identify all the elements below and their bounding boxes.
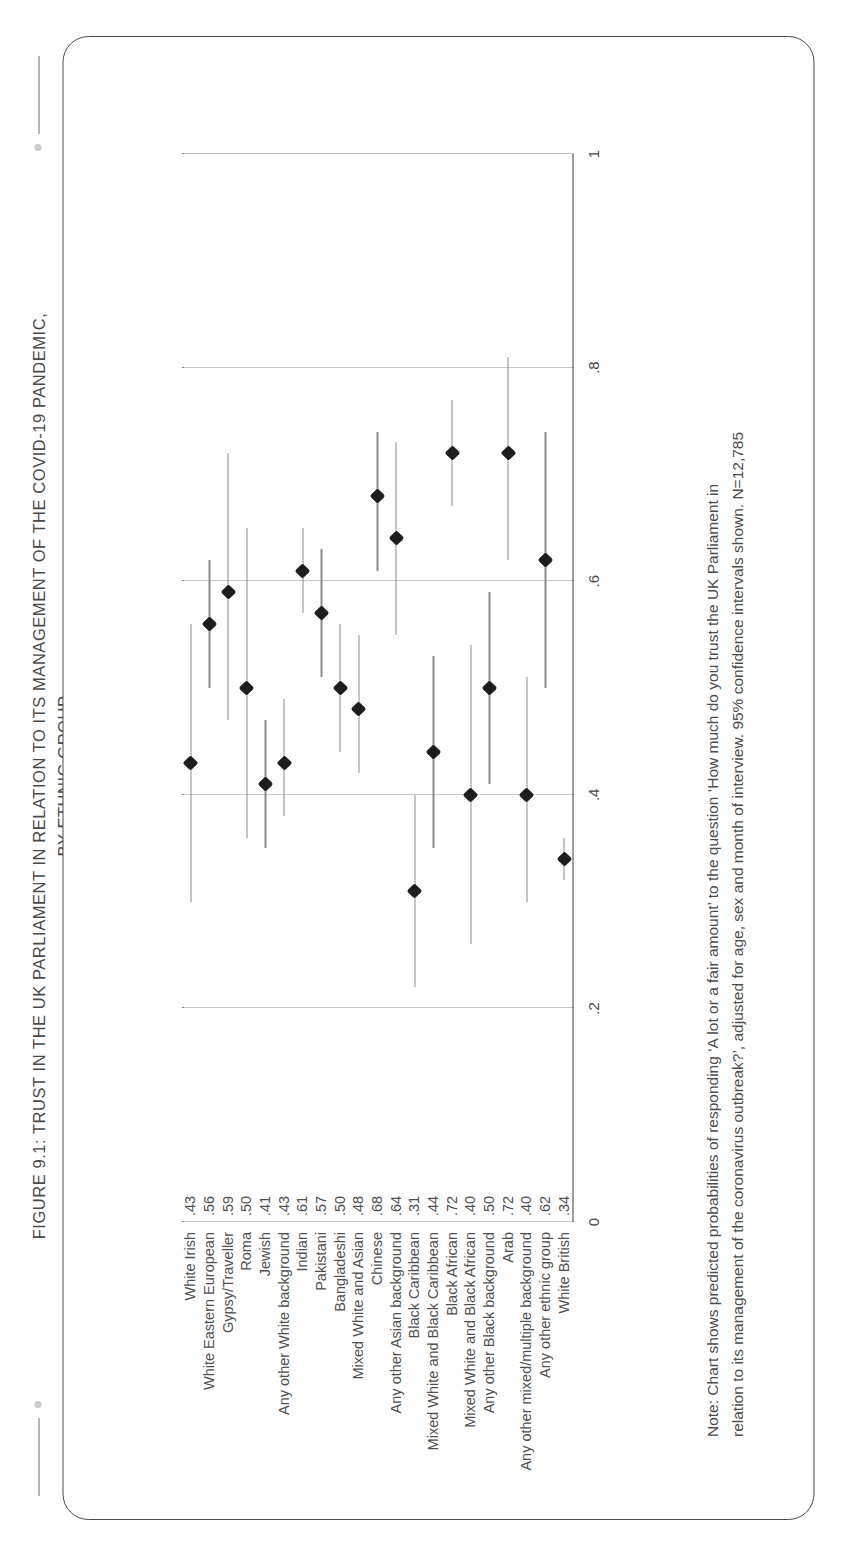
- category-label: White British: [556, 1232, 571, 1313]
- data-point-marker: [183, 755, 199, 771]
- category-label: Arab: [500, 1232, 515, 1263]
- category-label: Black Caribbean: [407, 1232, 422, 1338]
- figure-stage: FIGURE 9.1: TRUST IN THE UK PARLIAMENT I…: [0, 0, 851, 1556]
- data-point-marker: [537, 552, 553, 568]
- data-point-marker: [239, 680, 255, 696]
- figure-title-line-1: FIGURE 9.1: TRUST IN THE UK PARLIAMENT I…: [29, 313, 47, 1240]
- category-label: White Eastern European: [202, 1232, 217, 1390]
- category-label: Black African: [444, 1232, 459, 1316]
- x-tick-label-0: 0: [584, 1218, 601, 1226]
- plot-region: [181, 154, 573, 1222]
- x-tick-label-.4: .4: [584, 789, 601, 802]
- data-point-marker: [313, 605, 329, 621]
- category-label: Mixed White and Asian: [351, 1232, 366, 1380]
- gridline-.2: [181, 1007, 573, 1008]
- data-point-marker: [463, 787, 479, 803]
- header-rule-left: [38, 1418, 39, 1496]
- data-point-marker: [369, 488, 385, 504]
- category-label: Any other ethnic group: [538, 1232, 553, 1378]
- figure-note-line-1: Note: Chart shows predicted probabilitie…: [703, 484, 720, 1437]
- x-tick-label-.2: .2: [584, 1002, 601, 1015]
- data-point-marker: [556, 851, 572, 867]
- category-label: Any other White background: [276, 1232, 291, 1415]
- figure-note: Note: Chart shows predicted probabilitie…: [699, 107, 749, 1437]
- data-point-marker: [519, 787, 535, 803]
- data-point-marker: [388, 531, 404, 547]
- figure-note-line-2: relation to its management of the corona…: [724, 107, 749, 1437]
- data-point-marker: [425, 744, 441, 760]
- category-label: Pakistani: [314, 1232, 329, 1291]
- category-label: Any other mixed/multiple background: [519, 1232, 534, 1471]
- gridline-0: [181, 1221, 573, 1222]
- category-label: Mixed White and Black Caribbean: [426, 1232, 441, 1450]
- category-label: White Irish: [183, 1232, 198, 1301]
- category-label: Indian: [295, 1232, 310, 1272]
- data-point-marker: [257, 776, 273, 792]
- data-point-marker: [201, 616, 217, 632]
- x-axis-line: [572, 154, 573, 1222]
- header-rule-right: [38, 56, 39, 134]
- category-label: Bangladeshi: [332, 1232, 347, 1312]
- data-point-marker: [407, 883, 423, 899]
- gridline-1: [181, 153, 573, 154]
- x-tick-label-.6: .6: [584, 575, 601, 588]
- category-label: Roma: [239, 1232, 254, 1271]
- gridline-.4: [181, 794, 573, 795]
- category-label: Chinese: [370, 1232, 385, 1285]
- category-label: Jewish: [258, 1232, 273, 1276]
- category-axis: White Irish.43White Eastern European.56G…: [181, 1222, 573, 1394]
- category-label: Any other Asian background: [388, 1232, 403, 1413]
- data-point-marker: [220, 584, 236, 600]
- x-tick-label-.8: .8: [584, 361, 601, 374]
- gridline-.8: [181, 367, 573, 368]
- data-point-marker: [444, 445, 460, 461]
- chart-area: White Irish.43White Eastern European.56G…: [181, 154, 609, 1394]
- gridline-.6: [181, 580, 573, 581]
- data-point-marker: [481, 680, 497, 696]
- data-point-marker: [500, 445, 516, 461]
- data-point-marker: [351, 702, 367, 718]
- category-label: Any other Black background: [482, 1232, 497, 1413]
- header-bullet-right-icon: [34, 144, 41, 151]
- data-point-marker: [332, 680, 348, 696]
- x-tick-label-1: 1: [584, 150, 601, 158]
- figure-card: White Irish.43White Eastern European.56G…: [62, 36, 814, 1520]
- category-label: Mixed White and Black African: [463, 1232, 478, 1428]
- data-point-marker: [295, 563, 311, 579]
- data-point-marker: [276, 755, 292, 771]
- category-label: Gypsy/Traveller: [220, 1232, 235, 1333]
- header-bullet-left-icon: [34, 1401, 41, 1408]
